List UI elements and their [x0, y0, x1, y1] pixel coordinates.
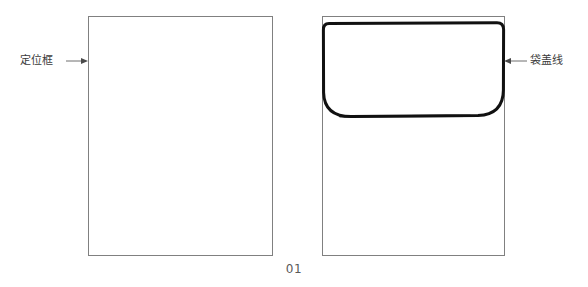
- flap-outline-path: [323, 23, 503, 117]
- figure-caption: 01: [0, 262, 588, 276]
- arrowhead-right-icon: [81, 58, 88, 64]
- annotation-leader-positioning-frame: [66, 58, 88, 64]
- right-panel-rectangle: [323, 17, 505, 256]
- arrowhead-left-icon: [504, 58, 511, 64]
- figure-canvas: [0, 0, 588, 287]
- annotation-label-flap-line: 袋盖线: [530, 54, 564, 67]
- left-panel-rectangle: [89, 17, 273, 256]
- annotation-leader-flap-line: [504, 58, 527, 64]
- annotation-label-positioning-frame: 定位框: [20, 54, 54, 67]
